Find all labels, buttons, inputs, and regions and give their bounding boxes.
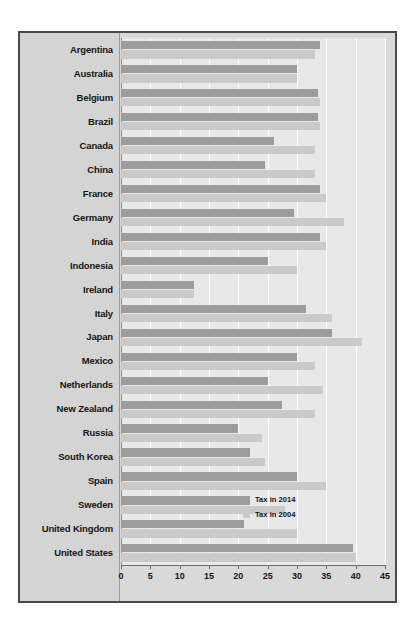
bar-tax-2014 — [121, 305, 306, 313]
category-label: France — [83, 182, 119, 206]
x-tick-label: 10 — [175, 571, 185, 581]
chart-row — [121, 206, 385, 230]
chart-row — [121, 158, 385, 182]
bar-tax-2014 — [121, 137, 274, 145]
x-tick-20 — [238, 565, 239, 569]
category-label: Japan — [86, 325, 119, 349]
x-tick-label: 30 — [292, 571, 302, 581]
legend-item-tax-2004: Tax in 2004 — [243, 510, 295, 519]
x-tick-40 — [356, 565, 357, 569]
chart-figure: ArgentinaAustraliaBelgiumBrazilCanadaChi… — [18, 31, 397, 603]
chart-row — [121, 421, 385, 445]
bar-tax-2004 — [121, 218, 344, 226]
bar-tax-2014 — [121, 520, 244, 528]
bar-tax-2004 — [121, 146, 315, 154]
bar-tax-2014 — [121, 65, 297, 73]
x-tick-25 — [268, 565, 269, 569]
plot-inner — [121, 38, 385, 565]
bar-tax-2014 — [121, 281, 194, 289]
bar-tax-2004 — [121, 74, 297, 82]
x-tick-30 — [297, 565, 298, 569]
bar-tax-2004 — [121, 122, 320, 130]
category-label: China — [87, 158, 119, 182]
chart-row — [121, 38, 385, 62]
category-label: India — [92, 230, 119, 254]
x-tick-label: 40 — [351, 571, 361, 581]
tax-2004-swatch — [243, 511, 250, 518]
chart-row — [121, 278, 385, 302]
chart-row — [121, 86, 385, 110]
bar-tax-2004 — [121, 553, 356, 561]
category-label: Brazil — [88, 110, 119, 134]
category-label: Ireland — [83, 278, 119, 302]
category-label: United Kingdom — [42, 517, 119, 541]
chart-row — [121, 302, 385, 326]
bar-tax-2014 — [121, 89, 318, 97]
chart-row — [121, 397, 385, 421]
category-label: Sweden — [78, 493, 119, 517]
bar-tax-2014 — [121, 544, 353, 552]
bar-tax-2004 — [121, 529, 297, 537]
bar-tax-2014 — [121, 353, 297, 361]
category-label: Belgium — [77, 86, 119, 110]
chart-row — [121, 469, 385, 493]
category-label: Mexico — [82, 349, 119, 373]
bar-tax-2004 — [121, 50, 315, 58]
x-tick-label: 15 — [204, 571, 214, 581]
category-label: Italy — [95, 302, 119, 326]
category-label-column: ArgentinaAustraliaBelgiumBrazilCanadaChi… — [20, 33, 120, 601]
bar-tax-2004 — [121, 482, 326, 490]
x-tick-35 — [326, 565, 327, 569]
bar-tax-2014 — [121, 257, 268, 265]
bar-tax-2014 — [121, 113, 318, 121]
chart-row — [121, 110, 385, 134]
chart-row — [121, 349, 385, 373]
bar-tax-2004 — [121, 362, 315, 370]
chart-row — [121, 62, 385, 86]
bar-tax-2004 — [121, 458, 265, 466]
tax-2014-swatch — [243, 496, 250, 503]
bar-tax-2004 — [121, 170, 315, 178]
bar-tax-2014 — [121, 41, 320, 49]
bar-tax-2004 — [121, 242, 326, 250]
chart-legend: Tax in 2014 Tax in 2004 — [243, 495, 295, 525]
bar-tax-2004 — [121, 314, 332, 322]
bar-tax-2004 — [121, 410, 315, 418]
bar-tax-2014 — [121, 233, 320, 241]
bar-tax-2014 — [121, 472, 297, 480]
chart-row — [121, 445, 385, 469]
x-tick-label: 0 — [118, 571, 123, 581]
x-axis-line — [121, 565, 385, 566]
bar-tax-2014 — [121, 448, 250, 456]
category-label: Australia — [74, 62, 119, 86]
legend-item-tax-2014: Tax in 2014 — [243, 495, 295, 504]
x-tick-label: 35 — [321, 571, 331, 581]
chart-row — [121, 325, 385, 349]
x-tick-15 — [209, 565, 210, 569]
chart-row — [121, 541, 385, 565]
bar-tax-2014 — [121, 161, 265, 169]
x-tick-label: 45 — [380, 571, 390, 581]
x-tick-0 — [121, 565, 122, 569]
category-label: South Korea — [58, 445, 119, 469]
bar-tax-2004 — [121, 386, 323, 394]
category-label: United States — [54, 541, 119, 565]
x-tick-label: 20 — [233, 571, 243, 581]
category-label: Netherlands — [60, 373, 119, 397]
category-label: Russia — [83, 421, 119, 445]
legend-label-tax-2004: Tax in 2004 — [255, 510, 295, 519]
category-label: Argentina — [70, 38, 119, 62]
bar-tax-2004 — [121, 266, 297, 274]
gridline-45 — [385, 38, 386, 565]
bar-tax-2014 — [121, 401, 282, 409]
x-tick-5 — [150, 565, 151, 569]
bar-tax-2014 — [121, 329, 332, 337]
bar-tax-2014 — [121, 209, 294, 217]
legend-label-tax-2014: Tax in 2014 — [255, 495, 295, 504]
category-label: Indonesia — [70, 254, 119, 278]
chart-row — [121, 134, 385, 158]
bar-tax-2004 — [121, 338, 362, 346]
x-tick-45 — [385, 565, 386, 569]
category-label: Germany — [73, 206, 119, 230]
bar-tax-2014 — [121, 424, 238, 432]
